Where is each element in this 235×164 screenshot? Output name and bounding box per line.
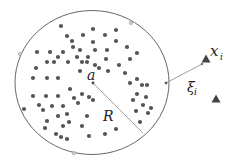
data-point [68,87,72,91]
data-point [45,76,49,80]
data-point [104,57,108,61]
data-point [149,106,153,110]
data-point [145,83,149,87]
data-point [103,132,107,136]
data-point [135,92,139,96]
data-point [54,132,58,136]
data-point [61,124,65,128]
data-point [67,120,71,124]
data-point [128,57,132,61]
data-point [103,33,107,37]
data-point [45,119,49,123]
support-vector-point [18,52,22,56]
data-point [85,114,89,118]
data-point [85,60,89,64]
data-point [80,92,84,96]
data-point [61,104,65,108]
data-point [144,95,148,99]
data-point [65,112,69,116]
data-point [146,111,150,115]
data-point [81,33,85,37]
data-point [141,103,145,107]
data-point [44,94,48,98]
data-point [56,94,60,98]
slack-line [166,64,202,83]
data-point [114,127,118,131]
data-point [114,39,118,43]
data-point [65,34,69,38]
data-point [91,40,95,44]
data-point [80,60,84,64]
data-point [76,101,80,105]
data-point [66,60,70,64]
data-point [78,69,82,73]
data-point [52,60,56,64]
data-point [86,55,90,59]
data-point [134,109,138,113]
outlier-triangles [202,55,221,103]
data-point [140,83,144,87]
data-point [93,48,97,52]
data-point [71,45,75,49]
outlier-subscript: i [220,52,223,62]
data-point [125,45,129,49]
data-point [56,55,60,59]
data-point [50,104,54,108]
data-point [131,98,135,102]
data-point [35,50,39,54]
outlier-triangle [212,95,221,103]
data-point [41,108,45,112]
slack-subscript: i [194,87,197,97]
data-point [123,71,127,75]
support-vector-point [72,151,76,155]
data-point [59,135,63,139]
data-point [59,24,63,28]
data-point [78,48,82,52]
data-point [80,124,84,128]
support-vector-point [165,82,168,85]
data-point [138,120,142,124]
data-point [128,81,132,85]
data-point [106,69,110,73]
data-point [48,50,52,54]
data-point [97,66,101,70]
outlier-label: x [210,42,219,60]
data-point [87,134,91,138]
data-point [65,137,69,141]
data-point [22,107,26,111]
data-point [31,94,35,98]
data-point [45,60,49,64]
radius-label: R [102,108,114,124]
data-point [135,51,139,55]
data-point [75,55,79,59]
data-point [114,28,118,32]
data-point [135,77,139,81]
data-point [87,95,91,99]
data-point [31,76,35,80]
data-point [91,98,95,102]
support-vector-point [129,21,133,25]
data-point [70,39,74,43]
radius-line [93,83,143,133]
data-point [37,103,41,107]
data-point [105,48,109,52]
data-point [43,126,47,130]
data-point [61,50,65,54]
data-point [56,76,60,80]
slack-end-point [201,63,203,65]
svdd-diagram: a R x i ξ i [0,0,235,164]
center-label: a [87,67,95,83]
data-point [72,96,76,100]
data-point [117,63,121,67]
data-point [91,27,95,31]
data-point [34,66,38,70]
data-point [56,114,60,118]
